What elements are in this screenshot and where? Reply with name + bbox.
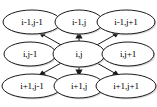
diagram-canvas: i-1,j-1 i-1,j i-1,j+1 i,j-1 — [0, 0, 157, 107]
node-middle-left-label: i,j-1 — [23, 49, 38, 59]
node-center[interactable]: i,j — [53, 41, 106, 68]
node-top-right-label: i-1,j+1 — [114, 17, 138, 27]
node-top-right[interactable]: i-1,j+1 — [97, 10, 156, 35]
node-middle-left[interactable]: i,j-1 — [4, 42, 57, 67]
node-middle-right[interactable]: i,j+1 — [102, 42, 155, 67]
node-bottom-right[interactable]: i+1,j+1 — [96, 74, 157, 99]
node-bottom-right-label: i+1,j+1 — [113, 81, 139, 91]
node-layer: i-1,j-1 i-1,j i-1,j+1 i,j-1 — [2, 10, 157, 99]
node-top-left[interactable]: i-1,j-1 — [3, 10, 62, 35]
node-middle-right-label: i,j+1 — [120, 49, 137, 59]
node-center-label: i,j — [76, 49, 83, 59]
node-bottom-left-label: i+1,j-1 — [20, 81, 44, 91]
node-top-center-label: i-1,j — [72, 17, 86, 27]
node-bottom-center-label: i+1,j — [71, 81, 87, 91]
node-top-left-label: i-1,j-1 — [21, 17, 43, 27]
neighborhood-grid-diagram: i-1,j-1 i-1,j i-1,j+1 i,j-1 — [0, 0, 157, 107]
